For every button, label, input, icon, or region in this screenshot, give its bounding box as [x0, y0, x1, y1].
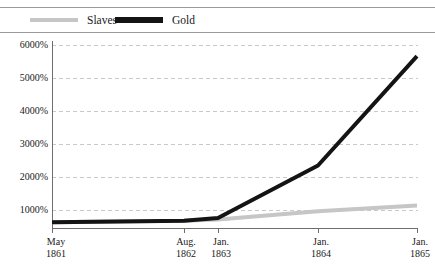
y-tick-5000: 5000% — [2, 73, 48, 83]
chart-canvas — [0, 33, 435, 270]
y-tick-2000: 2000% — [2, 172, 48, 182]
x-tick-label-4: Jan. 1865 — [390, 236, 435, 259]
x-tick-label-3: Jan. 1864 — [291, 236, 351, 259]
legend-label-slaves: Slaves — [87, 14, 117, 26]
gridlines — [52, 45, 418, 210]
y-tick-1000: 1000% — [2, 205, 48, 215]
series-line-gold — [52, 56, 417, 222]
y-tick-4000: 4000% — [2, 106, 48, 116]
legend-item-slaves: Slaves — [30, 12, 117, 28]
legend-rule-top — [0, 7, 435, 8]
x-tick-month-2: Jan. — [191, 236, 251, 248]
y-axis-labels: 6000% 5000% 4000% 3000% 2000% 1000% — [0, 33, 48, 270]
x-tick-month-3: Jan. — [291, 236, 351, 248]
chart-figure: Slaves Gold 6000% 5000% 4000% 3000% 2000… — [0, 0, 435, 270]
x-tick-label-0: May 1861 — [26, 236, 86, 259]
y-tick-6000: 6000% — [2, 40, 48, 50]
legend-item-gold: Gold — [115, 12, 195, 28]
legend-swatch-gold-icon — [115, 17, 163, 23]
x-tick-month-4: Jan. — [390, 236, 435, 248]
legend-label-gold: Gold — [172, 14, 195, 26]
x-tick-year-0: 1861 — [26, 248, 86, 260]
plot-area: 6000% 5000% 4000% 3000% 2000% 1000% — [0, 33, 435, 270]
y-tick-3000: 3000% — [2, 139, 48, 149]
x-tick-month-0: May — [26, 236, 86, 248]
chart-legend: Slaves Gold — [0, 7, 435, 33]
x-tick-label-2: Jan. 1863 — [191, 236, 251, 259]
x-tick-year-3: 1864 — [291, 248, 351, 260]
legend-swatch-slaves-icon — [30, 18, 78, 22]
x-tick-year-4: 1865 — [390, 248, 435, 260]
x-tick-year-2: 1863 — [191, 248, 251, 260]
